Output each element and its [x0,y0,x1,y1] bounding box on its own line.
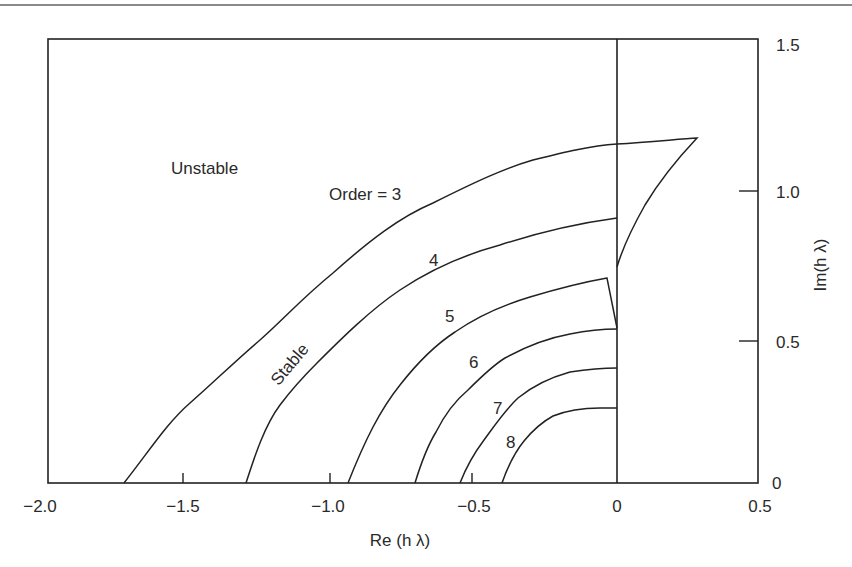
stability-curves [124,138,697,483]
curve-label-order-4: 4 [429,251,438,270]
y-tick-label: 1.0 [776,183,800,202]
plot-frame [48,39,758,483]
x-tick-label: −0.5 [457,497,491,516]
curve-order-6 [415,329,617,483]
x-tick-label: −1.0 [311,497,345,516]
stable-region-label: Stable [267,340,313,389]
y-tick-label: 1.5 [776,36,800,55]
y-tick-label: 0 [772,474,781,493]
x-axis-ticks [183,473,472,483]
y-tick-label: 0.5 [776,333,800,352]
curve-label-order-7: 7 [493,399,502,418]
y-axis-ticks [739,191,758,341]
curve-label-order-8: 8 [506,433,515,452]
y-axis-title: Im(h λ) [811,239,830,292]
curve-label-order-6: 6 [469,353,478,372]
curve-order-3 [124,138,697,483]
x-tick-label: −2.0 [23,497,57,516]
curve-order-8 [502,408,617,483]
unstable-region-label: Unstable [171,159,238,178]
curve-order-5 [348,278,617,483]
x-tick-label: 0 [612,497,621,516]
curve-label-order-3: Order = 3 [329,185,401,204]
x-axis-title: Re (h λ) [370,531,430,550]
x-tick-label: −1.5 [166,497,200,516]
x-tick-label: 0.5 [748,497,772,516]
stability-chart: −2.0 −1.5 −1.0 −0.5 0 0.5 0 0.5 1.0 1.5 … [0,0,852,567]
curve-label-order-5: 5 [445,307,454,326]
